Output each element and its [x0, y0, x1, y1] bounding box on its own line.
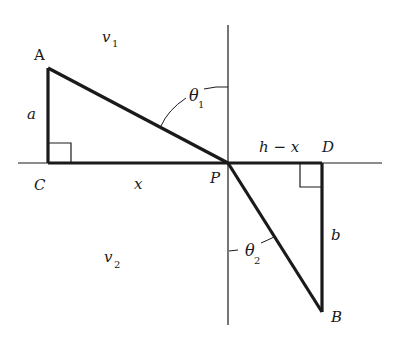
svg-text:v: v — [104, 248, 113, 266]
right-angle-marker-C — [49, 143, 71, 163]
theta1-leader-right — [204, 87, 228, 89]
right-angle-marker-D — [300, 164, 321, 187]
side-label-a: a — [27, 105, 36, 123]
theta2-leader-right — [261, 237, 274, 243]
side-label-x: x — [134, 175, 143, 193]
angle-label-theta2: θ 2 — [245, 241, 260, 266]
point-label-P: P — [209, 169, 221, 187]
svg-text:2: 2 — [114, 259, 120, 270]
segment-AP — [48, 68, 228, 163]
refraction-diagram: A C P D B a b x h − x v 1 v 2 θ 1 θ 2 — [0, 0, 393, 342]
point-label-B: B — [330, 308, 342, 326]
svg-text:1: 1 — [112, 38, 118, 49]
point-label-A: A — [33, 46, 45, 64]
side-label-h-minus-x: h − x — [259, 138, 300, 156]
side-label-b: b — [331, 226, 341, 244]
velocity-label-v2: v 2 — [104, 248, 120, 270]
point-label-C: C — [34, 176, 46, 194]
theta2-leader-left — [229, 250, 238, 251]
point-label-D: D — [321, 138, 334, 156]
segment-PB — [228, 163, 322, 312]
svg-text:v: v — [102, 28, 111, 46]
velocity-label-v1: v 1 — [102, 28, 118, 49]
theta1-leader — [161, 98, 186, 126]
svg-text:1: 1 — [198, 99, 204, 110]
svg-text:2: 2 — [254, 255, 260, 266]
angle-label-theta1: θ 1 — [189, 86, 204, 110]
